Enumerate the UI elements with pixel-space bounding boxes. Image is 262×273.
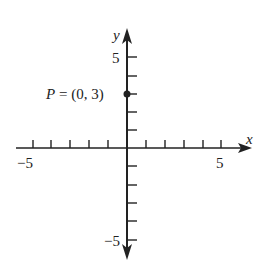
y-min-label: −5 [104,233,120,249]
point-p-coords: = (0, 3) [55,86,103,103]
y-axis-label: y [111,27,120,43]
point-p-label: P = (0, 3) [45,86,104,103]
y-axis [122,28,137,260]
coordinate-plane: x y −5 5 5 −5 P = (0, 3) [0,0,262,273]
x-axis [16,140,252,153]
y-max-label: 5 [112,50,120,66]
x-min-label: −5 [17,155,33,171]
point-p-name: P [45,86,55,102]
x-axis-label: x [245,131,253,147]
x-max-label: 5 [216,155,224,171]
point-p [124,91,131,98]
